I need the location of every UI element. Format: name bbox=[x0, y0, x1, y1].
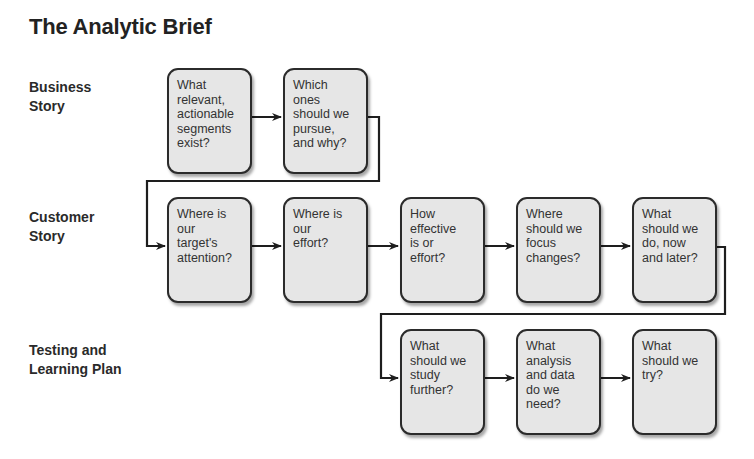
box-relevant-segments: What relevant, actionable segments exist… bbox=[167, 68, 252, 174]
box-text: Which ones should we pursue, and why? bbox=[293, 78, 365, 151]
box-text: Where is our effort? bbox=[293, 207, 365, 251]
box-text: What analysis and data do we need? bbox=[526, 339, 598, 412]
box-effort-effectiveness: How effective is or effort? bbox=[400, 197, 485, 303]
box-our-effort: Where is our effort? bbox=[283, 197, 368, 303]
box-study-further: What should we study further? bbox=[400, 329, 485, 435]
box-text: What should we try? bbox=[642, 339, 714, 383]
box-focus-changes: Where should we focus changes? bbox=[516, 197, 601, 303]
box-analysis-and-data: What analysis and data do we need? bbox=[516, 329, 601, 435]
box-text: What should we study further? bbox=[410, 339, 482, 397]
box-target-attention: Where is our target's attention? bbox=[167, 197, 252, 303]
box-which-to-pursue: Which ones should we pursue, and why? bbox=[283, 68, 368, 174]
box-text: Where is our target's attention? bbox=[177, 207, 249, 265]
box-text: What relevant, actionable segments exist… bbox=[177, 78, 249, 151]
box-what-to-try: What should we try? bbox=[632, 329, 717, 435]
box-text: How effective is or effort? bbox=[410, 207, 482, 265]
box-now-and-later: What should we do, now and later? bbox=[632, 197, 717, 303]
box-text: What should we do, now and later? bbox=[642, 207, 714, 265]
box-text: Where should we focus changes? bbox=[526, 207, 598, 265]
